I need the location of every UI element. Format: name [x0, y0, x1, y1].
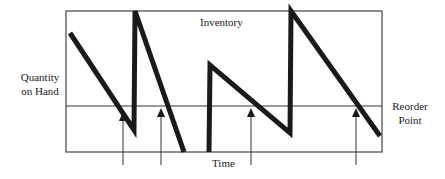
y-axis-label-line2: on Hand — [14, 84, 66, 98]
x-axis-label: Time — [212, 156, 235, 170]
reorder-point-label: Reorder Point — [384, 99, 436, 127]
reorder-label-line1: Reorder — [384, 99, 436, 113]
inventory-line-1 — [70, 11, 184, 152]
order-arrow-2 — [157, 108, 165, 165]
diagram-title: Inventory — [200, 15, 243, 29]
inventory-line-2 — [209, 11, 380, 152]
plot-frame — [66, 11, 382, 152]
y-axis-label-line1: Quantity — [14, 70, 66, 84]
order-arrow-1 — [119, 112, 127, 165]
reorder-label-line2: Point — [384, 113, 436, 127]
y-axis-label: Quantity on Hand — [14, 70, 66, 98]
order-arrow-3 — [247, 108, 255, 165]
order-arrow-4 — [352, 108, 360, 165]
